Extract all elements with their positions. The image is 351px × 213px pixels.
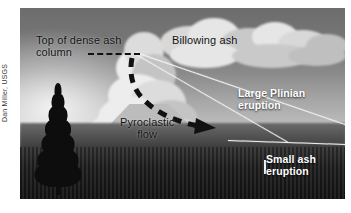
label-billowing-ash: Billowing ash: [172, 34, 238, 46]
volcano-figure: Dan Miller, USGS: [0, 0, 351, 213]
label-top-of-dense-ash-column: Top of dense ash column: [36, 34, 121, 59]
photo-credit: Dan Miller, USGS: [1, 64, 8, 122]
volcano-photograph: Top of dense ash column Billowing ash Py…: [20, 8, 345, 199]
label-small-ash-eruption: Small ash eruption: [266, 154, 316, 178]
tree-trunk: [56, 171, 60, 195]
label-pyroclastic-flow: Pyroclastic flow: [120, 116, 174, 141]
conifer-tree-silhouette: [34, 83, 82, 195]
ash-cloud-puff: [288, 46, 345, 66]
label-large-plinian-eruption: Large Plinian eruption: [238, 88, 305, 112]
